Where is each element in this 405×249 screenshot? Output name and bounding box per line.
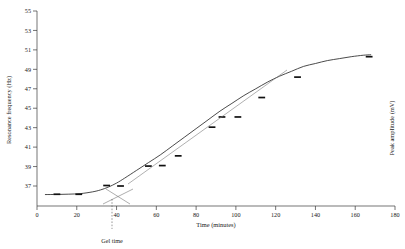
x-tick-label: 40 <box>113 211 119 218</box>
x-axis-label: Time (minutes) <box>196 221 235 229</box>
chart-figure: 37394143454749515355 0204060801001201401… <box>0 0 405 249</box>
x-tick-label: 160 <box>351 211 360 218</box>
x-tick-label: 180 <box>390 211 399 218</box>
chart-background <box>0 0 405 249</box>
y-tick-label: 39 <box>25 163 31 170</box>
y-tick-label: 55 <box>25 7 31 14</box>
x-tick-label: 60 <box>153 211 159 218</box>
y-tick-label: 47 <box>25 85 31 92</box>
y-tick-label: 53 <box>25 27 31 34</box>
gel-time-label: Gel time <box>101 237 123 244</box>
x-tick-label: 0 <box>35 211 38 218</box>
x-tick-label: 80 <box>193 211 199 218</box>
x-tick-label: 140 <box>311 211 320 218</box>
x-tick-label: 20 <box>74 211 80 218</box>
y-tick-label: 45 <box>25 104 31 111</box>
x-tick-label: 100 <box>231 211 240 218</box>
y-tick-label: 49 <box>25 66 31 73</box>
x-tick-label: 120 <box>271 211 280 218</box>
y-tick-label: 37 <box>25 182 31 189</box>
resonance-frequency-plot: 37394143454749515355 0204060801001201401… <box>0 0 405 249</box>
y-tick-label: 43 <box>25 124 31 131</box>
secondary-y-axis-label: Peak amplitude (mV) <box>388 100 396 155</box>
y-tick-label: 41 <box>25 143 31 150</box>
y-tick-label: 51 <box>25 46 31 53</box>
y-axis-label: Resonance frequency (Hz) <box>5 76 13 144</box>
